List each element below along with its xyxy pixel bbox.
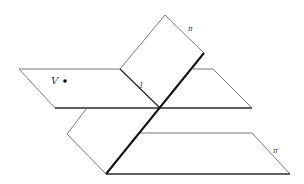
label-pi: π <box>187 25 193 33</box>
label-pi-prime: π′ <box>272 147 280 155</box>
point-V <box>63 79 67 83</box>
label-V: V <box>51 75 60 86</box>
diagram-canvas: V l π π′ <box>0 0 304 184</box>
vertical-plane-pi <box>67 15 204 174</box>
label-l: l <box>140 81 143 90</box>
intersection-line <box>106 53 204 174</box>
